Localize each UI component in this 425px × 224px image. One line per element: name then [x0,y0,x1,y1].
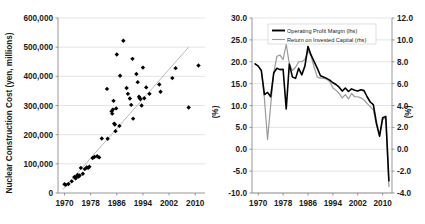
right-left-y-tick-label: -10.0 [228,189,247,198]
right-right-y-tick-label: 10.0 [397,36,413,45]
right-chart-axes [250,18,395,196]
left-x-tick-label: 1978 [82,199,101,208]
left-chart-axes [56,18,206,196]
left-x-tick-label: 1986 [108,199,127,208]
left-x-tick-label: 1994 [134,199,153,208]
right-left-y-tick-label: 5.0 [236,123,248,132]
right-chart-x-tick-labels: 197019781986199420022010 [249,199,392,208]
right-x-tick-label: 1994 [324,199,343,208]
line-chart-svg: -10.0-5.00.05.010.015.020.025.030.0 -4.0… [212,0,425,224]
profitability-chart: -10.0-5.00.05.010.015.020.025.030.0 -4.0… [212,0,425,224]
left-chart-y-axis-title: Nuclear Construction Cost (yen, millions… [5,32,14,193]
right-left-y-tick-label: -5.0 [233,167,248,176]
left-chart-gridlines [58,18,205,164]
right-chart-left-axis-title: (%) [212,105,220,118]
right-left-y-tick-label: 20.0 [231,58,247,67]
left-y-tick-label: 600,000 [23,14,53,23]
left-y-tick-label: 100,000 [23,160,53,169]
right-left-y-tick-label: 30.0 [231,14,247,23]
left-y-tick-label: 200,000 [23,131,53,140]
right-left-y-tick-label: 0.0 [236,145,248,154]
right-left-y-tick-label: 25.0 [231,36,247,45]
right-chart-legend: Operating Profit Margin (lhs)Return on I… [268,24,376,44]
right-right-y-tick-label: 0.0 [397,145,409,154]
left-chart-x-tick-labels: 197019781986199420022010 [55,199,204,208]
right-left-y-tick-label: 10.0 [231,102,247,111]
right-right-y-tick-label: -2.0 [397,167,412,176]
right-left-y-tick-label: 15.0 [231,80,247,89]
left-y-tick-label: 0 [48,189,53,198]
legend-label: Operating Profit Margin (lhs) [287,28,357,34]
right-chart-right-axis-title: (%) [404,105,413,118]
left-y-tick-label: 300,000 [23,102,53,111]
left-chart-data-points [62,39,200,187]
right-right-y-tick-label: 6.0 [397,80,409,89]
right-x-tick-label: 1978 [274,199,293,208]
right-chart-series-lines [255,44,389,186]
series-line-return-on-invested-capital [255,44,389,186]
right-x-tick-label: 1970 [249,199,268,208]
right-x-tick-label: 2002 [349,199,368,208]
left-x-tick-label: 1970 [55,199,74,208]
left-chart-y-tick-labels: 0100,000200,000300,000400,000500,000600,… [23,14,53,198]
left-x-tick-label: 2002 [160,199,179,208]
right-x-tick-label: 2010 [374,199,393,208]
right-x-tick-label: 1986 [299,199,318,208]
right-right-y-tick-label: 8.0 [397,58,409,67]
left-x-tick-label: 2010 [186,199,205,208]
right-right-y-tick-label: 12.0 [397,14,413,23]
left-y-tick-label: 400,000 [23,72,53,81]
left-y-tick-label: 500,000 [23,43,53,52]
right-right-y-tick-label: -4.0 [397,189,412,198]
legend-label: Return on Invested Capital (rhs) [287,37,366,43]
figure-container: 0100,000200,000300,000400,000500,000600,… [0,0,425,224]
right-chart-left-y-tick-labels: -10.0-5.00.05.010.015.020.025.030.0 [228,14,247,198]
nuclear-construction-cost-chart: 0100,000200,000300,000400,000500,000600,… [0,0,212,224]
scatter-chart-svg: 0100,000200,000300,000400,000500,000600,… [0,0,212,224]
right-right-y-tick-label: 2.0 [397,123,409,132]
